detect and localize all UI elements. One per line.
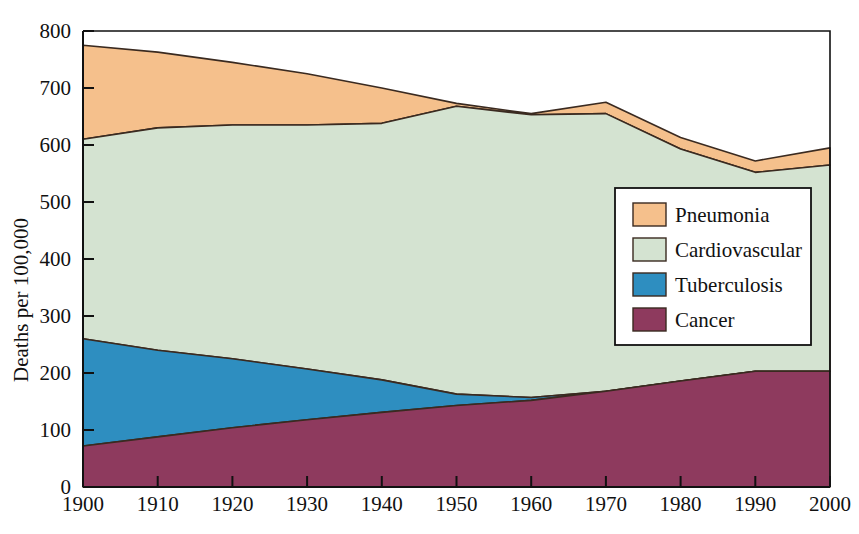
chart-container: 0100200300400500600700800 19001910192019… bbox=[0, 0, 859, 534]
x-tick-label: 1950 bbox=[436, 492, 478, 516]
y-axis-title-text: Deaths per 100,000 bbox=[9, 218, 33, 382]
y-tick-label: 800 bbox=[40, 19, 72, 43]
legend-label-tuberculosis: Tuberculosis bbox=[675, 273, 783, 297]
y-tick-label: 100 bbox=[40, 418, 72, 442]
legend-swatch-cancer bbox=[633, 308, 666, 331]
legend-label-cancer: Cancer bbox=[675, 308, 734, 332]
x-tick-label: 2000 bbox=[809, 492, 851, 516]
legend-swatch-pneumonia bbox=[633, 203, 666, 226]
y-tick-label: 700 bbox=[40, 76, 72, 100]
y-tick-label: 600 bbox=[40, 133, 72, 157]
legend: PneumoniaCardiovascularTuberculosisCance… bbox=[615, 188, 811, 345]
x-tick-label: 1970 bbox=[585, 492, 627, 516]
x-tick-label: 1990 bbox=[734, 492, 776, 516]
stacked-area-chart: 0100200300400500600700800 19001910192019… bbox=[0, 0, 859, 534]
x-tick-label: 1980 bbox=[660, 492, 702, 516]
y-tick-label: 300 bbox=[40, 304, 72, 328]
legend-swatch-tuberculosis bbox=[633, 273, 666, 296]
y-axis-title: Deaths per 100,000 bbox=[9, 218, 33, 382]
x-tick-label: 1910 bbox=[137, 492, 179, 516]
y-tick-label: 200 bbox=[40, 361, 72, 385]
y-tick-label: 400 bbox=[40, 247, 72, 271]
legend-label-cardiovascular: Cardiovascular bbox=[675, 238, 802, 262]
x-tick-label: 1940 bbox=[361, 492, 403, 516]
legend-label-pneumonia: Pneumonia bbox=[675, 203, 770, 227]
x-tick-label: 1960 bbox=[510, 492, 552, 516]
x-tick-label: 1920 bbox=[211, 492, 253, 516]
y-tick-label: 500 bbox=[40, 190, 72, 214]
legend-swatch-cardiovascular bbox=[633, 238, 666, 261]
x-tick-label: 1900 bbox=[62, 492, 104, 516]
x-tick-label: 1930 bbox=[286, 492, 328, 516]
